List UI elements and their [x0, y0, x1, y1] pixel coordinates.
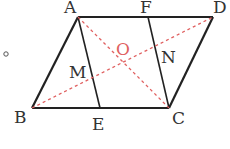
label-e: E	[92, 114, 104, 134]
degree-marker-icon	[4, 52, 8, 56]
label-a: A	[63, 0, 77, 17]
label-o: O	[116, 39, 130, 59]
label-c: C	[172, 108, 185, 128]
label-n: N	[161, 47, 176, 67]
label-d: D	[213, 0, 227, 17]
diagonal-bd	[32, 17, 213, 108]
label-b: B	[14, 107, 27, 127]
label-f: F	[140, 0, 152, 17]
label-m: M	[69, 62, 86, 82]
parallelogram-diagram: A F D B E C O M N	[0, 0, 230, 149]
